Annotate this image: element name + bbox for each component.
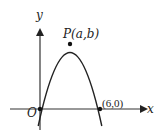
x-axis-label: x [147, 102, 154, 116]
vertex-point [68, 42, 72, 46]
origin-point [38, 107, 42, 111]
parabola-curve [38, 53, 102, 127]
vertex-label: P(a,b) [62, 27, 99, 41]
x-intercept-label: (6,0) [102, 97, 123, 110]
coordinate-diagram: y x O P(a,b) (6,0) [0, 0, 160, 140]
y-axis-label: y [35, 8, 43, 22]
origin-label: O [27, 106, 37, 120]
vertex-label-args: (a,b) [71, 27, 99, 41]
